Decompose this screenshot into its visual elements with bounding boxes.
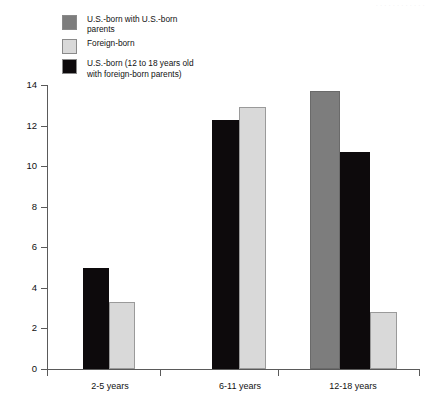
y-tick-label-10: 10 bbox=[26, 160, 37, 171]
x-axis-label-group-0: 2-5 years bbox=[91, 381, 129, 391]
legend-label-us_born_us_parents: U.S.-born with U.S.-born parents bbox=[87, 14, 177, 34]
x-axis-line bbox=[47, 369, 419, 370]
bar bbox=[340, 152, 370, 369]
bar bbox=[239, 107, 266, 369]
y-tick-label-12: 12 bbox=[26, 120, 37, 131]
x-tick-0 bbox=[47, 369, 48, 376]
bar bbox=[370, 312, 397, 369]
legend-swatch-foreign_born bbox=[62, 39, 77, 54]
bar-chart: · · · · · · · · · · · · U.S.-born with U… bbox=[0, 0, 431, 417]
x-axis-label-group-2: 12-18 years bbox=[329, 381, 377, 391]
legend-swatch-us_born_us_parents bbox=[62, 15, 77, 30]
bar bbox=[310, 91, 340, 369]
chart-legend: U.S.-born with U.S.-born parentsForeign-… bbox=[62, 14, 292, 83]
bar bbox=[83, 268, 109, 369]
legend-label-foreign_born: Foreign-born bbox=[87, 38, 135, 48]
y-tick-label-2: 2 bbox=[32, 322, 37, 333]
y-tick-label-4: 4 bbox=[32, 282, 37, 293]
y-tick-label-14: 14 bbox=[26, 79, 37, 90]
bar bbox=[109, 302, 135, 369]
legend-item-us_born_us_parents: U.S.-born with U.S.-born parents bbox=[62, 14, 292, 34]
y-tick-8: 8 bbox=[41, 207, 47, 208]
bar bbox=[212, 120, 239, 370]
legend-swatch-us_born_foreign_parents bbox=[62, 59, 77, 74]
y-tick-2: 2 bbox=[41, 328, 47, 329]
y-axis-line bbox=[47, 85, 48, 370]
legend-item-foreign_born: Foreign-born bbox=[62, 38, 292, 54]
y-tick-12: 12 bbox=[41, 126, 47, 127]
x-tick-2 bbox=[278, 369, 279, 376]
y-tick-6: 6 bbox=[41, 247, 47, 248]
x-tick-1 bbox=[160, 369, 161, 376]
x-tick-3 bbox=[419, 369, 420, 376]
y-tick-label-8: 8 bbox=[32, 201, 37, 212]
scan-artifact-text: · · · · · · · · · · · · bbox=[376, 2, 425, 8]
x-axis-label-group-1: 6-11 years bbox=[219, 381, 261, 391]
y-tick-label-0: 0 bbox=[32, 363, 37, 374]
y-tick-label-6: 6 bbox=[32, 241, 37, 252]
legend-item-us_born_foreign_parents: U.S.-born (12 to 18 years old with forei… bbox=[62, 58, 292, 78]
y-tick-10: 10 bbox=[41, 166, 47, 167]
legend-label-us_born_foreign_parents: U.S.-born (12 to 18 years old with forei… bbox=[87, 58, 194, 78]
y-tick-4: 4 bbox=[41, 288, 47, 289]
y-tick-14: 14 bbox=[41, 85, 47, 86]
